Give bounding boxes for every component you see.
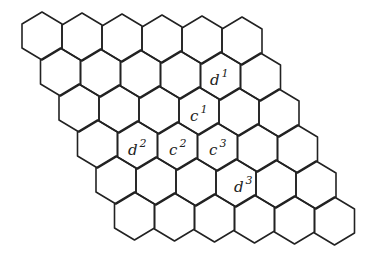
hexagon-cell [81, 49, 121, 97]
hexagon-cell [182, 16, 222, 64]
hexagon-cell [139, 86, 179, 134]
hexagon-cell [195, 194, 235, 242]
label-c3: c3 [209, 140, 226, 158]
hexagon-cell [22, 12, 62, 60]
hexagon-cell [219, 88, 259, 136]
hexagon-cell [278, 125, 318, 173]
hexagon-cell [241, 53, 281, 101]
label-c1: c1 [190, 106, 207, 124]
hexagon-cell [315, 197, 355, 245]
label-d2: d2 [128, 140, 147, 158]
hexagon-cell [155, 193, 195, 241]
hexagon-cell [259, 89, 299, 137]
hexagon-cell [222, 17, 262, 65]
hexagon-grid [0, 0, 374, 254]
hexagon-cell [102, 14, 142, 62]
hexagon-cell [238, 124, 278, 172]
hexagon-cell [161, 51, 201, 99]
label-d1: d1 [210, 70, 229, 88]
hexagon-cell [121, 50, 161, 98]
hexagon-cell [96, 156, 136, 204]
hex-grid-diagram: d1 c1 d2 c2 c3 d3 [0, 0, 374, 254]
hexagon-cell [59, 84, 99, 132]
hexagon-cell [78, 120, 118, 168]
hexagon-cell [142, 15, 182, 63]
hexagon-cell [176, 158, 216, 206]
hexagon-cell [62, 13, 102, 61]
hexagon-cell [275, 196, 315, 244]
hexagon-cell [136, 157, 176, 205]
label-d3: d3 [234, 177, 253, 195]
hexagon-cell [256, 160, 296, 208]
label-c2: c2 [169, 140, 186, 158]
hexagon-cell [99, 85, 139, 133]
hexagon-cell [41, 48, 81, 96]
hexagon-cell [235, 195, 275, 243]
hexagon-cell [115, 192, 155, 240]
hexagon-cell [296, 161, 336, 209]
